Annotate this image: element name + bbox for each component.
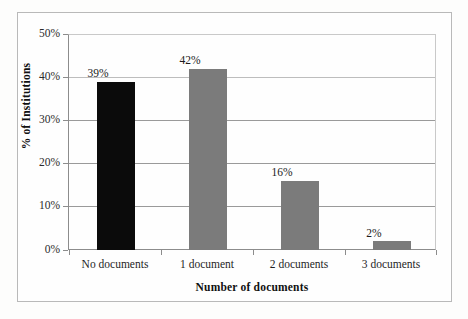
chart-page: 50% 40% 30% 20% 10% 0% 39% 42% 16% 2% No… [0,0,468,319]
x-tick-label-no-documents: No documents [69,258,161,271]
value-label-2-documents: 16% [263,167,301,179]
x-tick-mark-0 [69,250,70,255]
x-axis-title: Number of documents [68,281,436,293]
y-tick-mark-0 [63,250,68,251]
x-tick-label-1-document: 1 document [161,258,253,271]
x-tick-mark-1 [161,250,162,255]
x-tick-mark-4 [436,250,437,255]
x-tick-label-3-documents: 3 documents [345,258,437,271]
y-tick-label-10: 10% [16,200,60,212]
value-label-no-documents: 39% [79,68,117,80]
bar-1-document[interactable] [189,69,227,250]
y-tick-label-0: 0% [16,244,60,256]
value-label-3-documents: 2% [355,228,393,240]
x-tick-label-2-documents: 2 documents [253,258,345,271]
bars-layer [69,34,436,250]
value-label-1-document: 42% [171,55,209,67]
bar-no-documents[interactable] [97,82,135,250]
bar-2-documents[interactable] [281,181,319,250]
bar-3-documents[interactable] [373,241,411,250]
x-tick-mark-2 [253,250,254,255]
x-tick-mark-3 [345,250,346,255]
y-axis-title: % of Institutions [20,36,32,176]
